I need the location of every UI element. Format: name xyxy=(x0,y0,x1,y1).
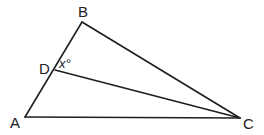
segment-ac xyxy=(25,117,240,118)
segment-dc xyxy=(55,70,240,118)
point-label-d: D xyxy=(39,60,50,77)
vertex-label-a: A xyxy=(10,114,20,131)
angle-label-x: x° xyxy=(58,56,71,71)
vertex-label-b: B xyxy=(78,3,88,20)
segment-bc xyxy=(82,22,240,118)
segment-ab xyxy=(25,22,82,117)
vertex-label-c: C xyxy=(243,115,254,132)
triangle-diagram: A B C D x° xyxy=(0,0,264,135)
